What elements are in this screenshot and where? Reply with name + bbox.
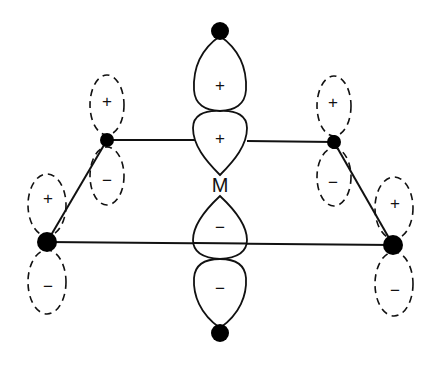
sign-lr-upper: + [390, 194, 400, 213]
atom-lower-left [37, 232, 57, 252]
sign-lr-lower: − [390, 281, 400, 300]
bond-right-edge [334, 142, 393, 245]
atom-lower-right [383, 235, 403, 255]
sign-ll-upper: + [43, 189, 53, 208]
sign-ul-upper: + [102, 92, 112, 111]
bond-through-center [193, 243, 247, 244]
bond-upper-right [247, 141, 334, 142]
sign-ur-lower: − [328, 173, 338, 192]
metal-label: M [212, 174, 229, 196]
atom-top [211, 22, 229, 40]
sign-ll-lower: − [43, 277, 53, 296]
atom-upper-right [327, 135, 341, 149]
sign-top-inner: + [215, 129, 225, 148]
atom-bottom [211, 324, 229, 342]
diagram-canvas: M + + − − + − + − + − + − [0, 0, 439, 365]
sign-ul-lower: − [102, 171, 112, 190]
lobe-top-outer [194, 36, 246, 111]
sign-bottom-inner: − [215, 218, 225, 237]
sign-top-outer: + [215, 76, 225, 95]
sign-bottom-outer: − [215, 279, 225, 298]
bond-left-edge [47, 140, 107, 242]
orbital-diagram: M + + − − + − + − + − + − [0, 0, 439, 365]
sign-ur-upper: + [328, 93, 338, 112]
atom-upper-left [100, 133, 114, 147]
